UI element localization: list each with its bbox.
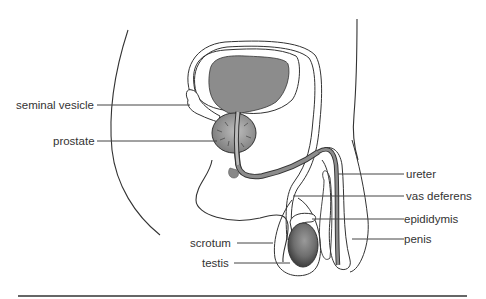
anatomy-diagram [0,0,486,299]
label-scrotum: scrotum [190,236,231,250]
label-testis: testis [202,256,229,270]
back-outline [111,30,160,235]
label-penis: penis [404,232,432,246]
abdomen-outline [353,19,358,160]
label-vas-deferens: vas deferens [406,189,472,203]
label-ureter: ureter [406,167,436,181]
penis-outer [350,140,368,272]
label-seminal-vesicle: seminal vesicle [16,98,94,112]
label-prostate: prostate [53,134,95,148]
testis [288,223,318,267]
label-epididymis: epididymis [404,212,458,226]
